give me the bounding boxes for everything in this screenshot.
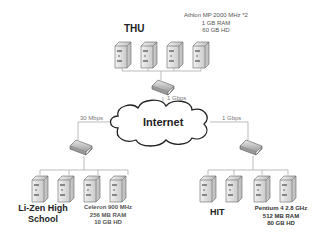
thu-spec-cpu: Athlon MP 2000 MHz *2 <box>166 12 266 20</box>
lizen-link-speed: 30 Mbps <box>80 115 103 121</box>
lizen-spec-ram: 256 MB RAM <box>78 212 138 220</box>
lizen-name-line1: Li-Zen High <box>17 203 69 214</box>
lizen-specs: Celeron 900 MHz 256 MB RAM 10 GB HD <box>78 204 138 227</box>
thu-switch <box>152 80 174 95</box>
lizen-spec-cpu: Celeron 900 MHz <box>78 204 138 212</box>
lizen-name-line2: School <box>17 214 69 225</box>
thu-spec-ram: 1 GB RAM <box>166 20 266 28</box>
hit-servers <box>200 176 296 202</box>
lizen-site-label: Li-Zen High School <box>17 203 69 225</box>
thu-spec-hd: 60 GB HD <box>166 27 266 35</box>
hit-site-label: HIT <box>210 207 225 217</box>
thu-site-label: THU <box>124 23 145 34</box>
internet-label: Internet <box>143 116 183 128</box>
lizen-switch <box>70 140 92 155</box>
hit-spec-ram: 512 MB RAM <box>250 213 312 221</box>
hit-link-speed: 1 Gbps <box>222 115 241 121</box>
thu-link-speed: 1 Gbps <box>167 95 186 101</box>
hit-spec-cpu: Pentium 4 2.8 GHz <box>250 205 312 213</box>
lizen-servers <box>32 176 126 202</box>
hit-switch <box>240 140 262 155</box>
thu-servers <box>115 42 209 68</box>
lizen-spec-hd: 10 GB HD <box>78 219 138 227</box>
thu-specs: Athlon MP 2000 MHz *2 1 GB RAM 60 GB HD <box>166 12 266 35</box>
hit-specs: Pentium 4 2.8 GHz 512 MB RAM 80 GB HD <box>250 205 312 228</box>
hit-spec-hd: 80 GB HD <box>250 220 312 228</box>
